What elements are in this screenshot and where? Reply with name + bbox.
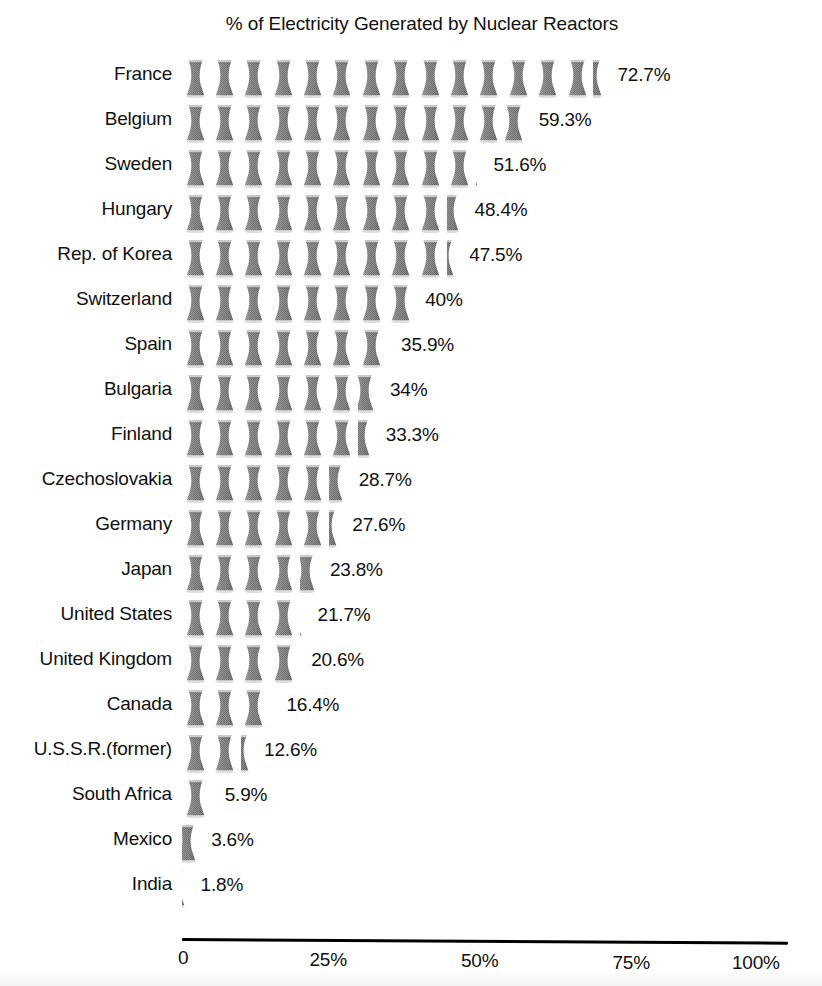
cooling-tower-icon [329,193,358,235]
row-track: 5.9% [182,777,822,822]
x-axis-ticks: 025%50%75%100% [0,944,822,974]
cooling-tower-icon [182,553,211,595]
cooling-tower-icon [388,103,417,145]
cooling-tower-icon [417,103,446,145]
cooling-tower-icon [358,238,387,280]
cooling-tower-icon [358,103,387,145]
cooling-tower-icon-partial [593,58,609,100]
row-track: 1.8% [182,867,822,912]
cooling-tower-icon [417,148,446,190]
row-label-france: France [0,63,172,85]
cooling-tower-icon-partial [358,373,382,415]
cooling-tower-icon [211,283,240,325]
row-label-japan: Japan [0,558,172,580]
cooling-tower-icon [211,508,240,550]
row-label-finland: Finland [0,423,172,445]
tower-group [182,868,193,910]
row-value-label: 35.9% [401,334,454,355]
tower-group [182,688,278,730]
row-value-label: 48.4% [475,199,528,220]
cooling-tower-icon [388,58,417,100]
cooling-tower-icon [476,58,505,100]
chart-row: Switzerland40% [0,282,822,327]
chart-row: Japan23.8% [0,552,822,597]
tower-group [182,283,417,325]
tower-group [182,823,203,865]
x-axis-tick-label: 50% [461,950,498,972]
row-label-spain: Spain [0,333,172,355]
row-label-bulgaria: Bulgaria [0,378,172,400]
cooling-tower-icon-partial [329,463,351,505]
row-label-united-kingdom: United Kingdom [0,648,172,670]
chart-row: India1.8% [0,867,822,912]
cooling-tower-icon-partial [447,238,462,280]
row-value-label: 33.3% [386,424,439,445]
cooling-tower-icon [211,688,240,730]
row-track: 21.7% [182,597,822,642]
cooling-tower-icon [270,643,299,685]
cooling-tower-icon [270,148,299,190]
cooling-tower-icon [270,238,299,280]
cooling-tower-icon [211,733,240,775]
cooling-tower-icon [329,418,358,460]
cooling-tower-icon [182,58,211,100]
row-value-label: 21.7% [318,604,371,625]
row-value-label: 16.4% [286,694,339,715]
cooling-tower-icon [241,463,270,505]
cooling-tower-icon [329,148,358,190]
cooling-tower-icon-partial [300,643,304,685]
cooling-tower-icon [182,373,211,415]
row-label-sweden: Sweden [0,153,172,175]
row-track: 51.6% [182,147,822,192]
row-track: 34% [182,372,822,417]
row-value-label: 34% [390,379,427,400]
cooling-tower-icon [447,58,476,100]
cooling-tower-icon [358,58,387,100]
chart-row: Rep. of Korea47.5% [0,237,822,282]
chart-rows: France72.7%Belgium59.3%Sweden51.6%Hungar… [0,57,822,912]
tower-group [182,238,461,280]
row-label-india: India [0,873,172,895]
tower-group [182,373,382,415]
chart-row: Spain35.9% [0,327,822,372]
cooling-tower-icon [182,598,211,640]
cooling-tower-icon [270,58,299,100]
row-track: 40% [182,282,822,327]
cooling-tower-icon [505,58,534,100]
chart-row: France72.7% [0,57,822,102]
cooling-tower-icon-partial [211,778,216,820]
cooling-tower-icon-partial [505,103,530,145]
row-track: 28.7% [182,462,822,507]
cooling-tower-icon-partial [182,823,203,865]
row-label-u-s-s-r-former: U.S.S.R.(former) [0,738,172,760]
row-track: 33.3% [182,417,822,462]
cooling-tower-icon [270,463,299,505]
cooling-tower-icon-partial [270,688,278,730]
page-title: % of Electricity Generated by Nuclear Re… [0,13,822,35]
cooling-tower-icon [211,238,240,280]
chart-row: Sweden51.6% [0,147,822,192]
cooling-tower-icon [211,148,240,190]
row-track: 48.4% [182,192,822,237]
cooling-tower-icon [447,148,476,190]
cooling-tower-icon [270,103,299,145]
row-value-label: 12.6% [264,739,317,760]
cooling-tower-icon [241,238,270,280]
cooling-tower-icon [270,283,299,325]
cooling-tower-icon-partial [182,868,193,910]
cooling-tower-icon [270,553,299,595]
cooling-tower-icon [211,553,240,595]
cooling-tower-icon [211,328,240,370]
cooling-tower-icon [476,103,505,145]
cooling-tower-icon [241,553,270,595]
tower-group [182,193,467,235]
cooling-tower-icon [300,238,329,280]
row-value-label: 20.6% [311,649,364,670]
cooling-tower-icon [182,778,211,820]
chart-row: Canada16.4% [0,687,822,732]
row-track: 12.6% [182,732,822,777]
cooling-tower-icon [182,463,211,505]
pictogram-chart: % of Electricity Generated by Nuclear Re… [0,0,822,986]
cooling-tower-icon [300,193,329,235]
cooling-tower-icon [211,463,240,505]
